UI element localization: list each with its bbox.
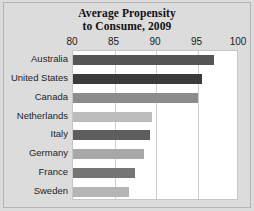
x-tick-label-85: 85 — [108, 36, 119, 47]
x-tick-label-100: 100 — [230, 36, 247, 47]
bar-united-states — [73, 74, 202, 84]
plot-area — [72, 50, 238, 200]
bar-series — [73, 51, 237, 199]
chart-figure: Average Propensity to Consume, 2009 8085… — [0, 0, 254, 211]
chart-title-line-1: Average Propensity — [78, 7, 176, 19]
category-label-australia: Australia — [0, 53, 68, 64]
bar-italy — [73, 130, 150, 140]
category-label-germany: Germany — [0, 147, 68, 158]
bar-germany — [73, 149, 144, 159]
bar-canada — [73, 93, 198, 103]
category-label-france: France — [0, 166, 68, 177]
chart-title: Average Propensity to Consume, 2009 — [0, 7, 254, 33]
x-tick-label-95: 95 — [191, 36, 202, 47]
x-tick-label-90: 90 — [149, 36, 160, 47]
bar-australia — [73, 55, 214, 65]
bar-netherlands — [73, 112, 152, 122]
bar-france — [73, 168, 135, 178]
x-tick-label-80: 80 — [66, 36, 77, 47]
y-axis-category-labels: AustraliaUnited StatesCanadaNetherlandsI… — [0, 50, 68, 200]
category-label-italy: Italy — [0, 128, 68, 139]
bar-sweden — [73, 187, 129, 197]
chart-title-line-2: to Consume, 2009 — [0, 20, 254, 33]
category-label-sweden: Sweden — [0, 185, 68, 196]
x-axis-tick-labels: 80859095100 — [0, 36, 254, 49]
category-label-united-states: United States — [0, 72, 68, 83]
category-label-canada: Canada — [0, 91, 68, 102]
category-label-netherlands: Netherlands — [0, 110, 68, 121]
